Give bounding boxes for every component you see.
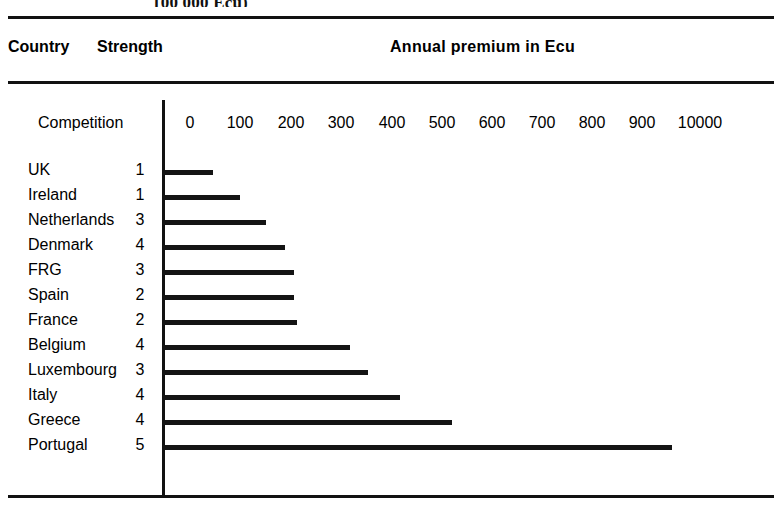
top-rule (8, 16, 774, 19)
row-country-label: Portugal (28, 436, 88, 454)
row-country-label: UK (28, 161, 50, 179)
x-tick-label: 100 (227, 114, 254, 132)
row-country-label: Luxembourg (28, 361, 117, 379)
x-tick-label: 400 (379, 114, 406, 132)
row-strength-value: 5 (128, 436, 152, 454)
x-tick-label: 10000 (678, 114, 723, 132)
bar (163, 220, 266, 225)
row-country-label: Greece (28, 411, 80, 429)
header-separator-rule (8, 81, 774, 84)
bar (163, 345, 350, 350)
row-strength-value: 3 (128, 261, 152, 279)
row-strength-value: 4 (128, 336, 152, 354)
bar (163, 270, 294, 275)
row-country-label: Belgium (28, 336, 86, 354)
x-axis-tick-labels: 010020030040050060070080090010000 (0, 114, 784, 134)
row-strength-value: 1 (128, 186, 152, 204)
row-strength-value: 4 (128, 411, 152, 429)
row-country-label: Italy (28, 386, 57, 404)
table-row: Belgium4 (0, 335, 784, 360)
row-strength-value: 2 (128, 311, 152, 329)
chart-page: 100 000 Ecu) Country Strength Annual pre… (0, 0, 784, 507)
bar (163, 445, 672, 450)
bar (163, 170, 213, 175)
table-row: Ireland1 (0, 185, 784, 210)
row-strength-value: 4 (128, 236, 152, 254)
table-row: Italy4 (0, 385, 784, 410)
row-strength-value: 4 (128, 386, 152, 404)
x-tick-label: 600 (479, 114, 506, 132)
bar (163, 295, 294, 300)
row-country-label: Netherlands (28, 211, 114, 229)
bar (163, 320, 297, 325)
row-country-label: France (28, 311, 78, 329)
x-tick-label: 800 (579, 114, 606, 132)
bar (163, 195, 240, 200)
bottom-rule (8, 495, 774, 498)
x-tick-label: 700 (529, 114, 556, 132)
table-row: Netherlands3 (0, 210, 784, 235)
row-country-label: Ireland (28, 186, 77, 204)
bar (163, 420, 452, 425)
x-tick-label: 0 (186, 114, 195, 132)
bar (163, 370, 368, 375)
row-country-label: Denmark (28, 236, 93, 254)
row-strength-value: 2 (128, 286, 152, 304)
table-row: Greece4 (0, 410, 784, 435)
table-row: France2 (0, 310, 784, 335)
x-tick-label: 300 (328, 114, 355, 132)
bar (163, 395, 400, 400)
table-row: FRG3 (0, 260, 784, 285)
row-strength-value: 1 (128, 161, 152, 179)
column-header-country: Country (8, 38, 69, 56)
row-strength-value: 3 (128, 211, 152, 229)
bar-rows: UK1Ireland1Netherlands3Denmark4FRG3Spain… (0, 160, 784, 490)
row-country-label: FRG (28, 261, 62, 279)
column-header-strength: Strength (97, 38, 163, 56)
chart-title: Annual premium in Ecu (390, 38, 575, 56)
x-tick-label: 500 (429, 114, 456, 132)
row-strength-value: 3 (128, 361, 152, 379)
bar (163, 245, 285, 250)
x-tick-label: 200 (278, 114, 305, 132)
row-country-label: Spain (28, 286, 69, 304)
table-row: Denmark4 (0, 235, 784, 260)
table-row: Portugal5 (0, 435, 784, 460)
table-row: Luxembourg3 (0, 360, 784, 385)
table-row: UK1 (0, 160, 784, 185)
caption-fragment: 100 000 Ecu) (0, 0, 400, 7)
table-row: Spain2 (0, 285, 784, 310)
x-tick-label: 900 (629, 114, 656, 132)
